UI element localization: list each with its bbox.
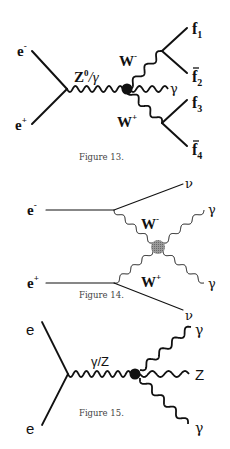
label-z-gamma: Z0/γ [74,68,100,85]
neutrino-top-line [114,184,183,210]
label-photon-bottom: γ [195,420,203,436]
figure-13: e- e+ Z0/γ W- W+ γ f1 f2 f3 f4 Figure 13… [15,20,202,162]
label-gamma-z: γ/Z [91,354,109,369]
label-z: Z [195,366,204,383]
vertex-blob-shaded [151,240,165,254]
f4-line [162,123,187,146]
caption-figure-15: Figure 15. [79,408,124,418]
label-e-bottom: e [26,420,34,437]
f3-line [162,100,187,123]
z-out [140,371,189,377]
label-e-minus: e- [17,41,27,59]
label-w-plus: W+ [141,272,161,290]
label-w-plus: W+ [117,112,137,130]
label-photon-top: γ [195,322,203,338]
label-e-minus: e- [27,200,37,218]
photon-top-out [140,327,191,371]
f1-line [162,28,187,51]
svg-text:f4: f4 [192,141,202,161]
f2-line [162,51,187,73]
caption-figure-14: Figure 14. [79,290,124,300]
label-f3: f3 [192,94,202,114]
label-photon-top: γ [208,202,216,217]
electron-line [32,51,67,89]
label-photon-bottom: γ [208,276,216,291]
figure-14: e- e+ W- W+ ν ν γ γ Figure 14. [27,176,216,323]
gamma-z-propagator [68,371,131,377]
photon-bottom-out [140,378,188,424]
label-w-minus: W- [119,51,137,69]
label-neutrino-bottom: ν [185,308,193,323]
photon-top [163,210,204,243]
electron-top-line [42,322,68,374]
label-f4-bar: f4 [192,141,202,161]
positron-line [32,89,67,124]
photon-out [130,86,168,92]
label-neutrino-top: ν [185,176,193,191]
vertex-blob [130,369,141,380]
z-gamma-propagator [67,86,123,92]
label-e-top: e [26,321,34,338]
label-e-plus: e+ [15,115,27,133]
caption-figure-13: Figure 13. [79,152,124,162]
label-f2-bar: f2 [192,68,202,88]
label-e-plus: e+ [27,273,39,291]
svg-text:f2: f2 [192,68,202,88]
feynman-diagrams: e- e+ Z0/γ W- W+ γ f1 f2 f3 f4 Figure 13… [0,0,230,449]
label-w-minus: W- [141,214,159,232]
vertex-blob [122,84,133,95]
label-photon: γ [170,81,178,96]
photon-bottom [163,251,204,283]
electron-bottom-line [42,374,68,425]
figure-15: e e γ/Z γ Z γ Figure 15. [26,321,204,437]
label-f1: f1 [192,20,202,40]
